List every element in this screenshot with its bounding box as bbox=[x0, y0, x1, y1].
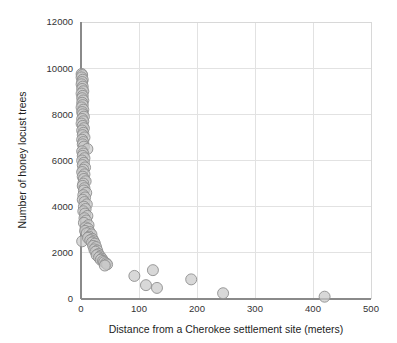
y-tick-labels-group: 020004000600080001000012000 bbox=[47, 16, 73, 304]
y-tick-label: 2000 bbox=[52, 247, 73, 258]
scatter-chart-figure: 020004000600080001000012000 010020030040… bbox=[0, 0, 397, 343]
data-point bbox=[129, 270, 140, 281]
data-point bbox=[140, 280, 151, 291]
y-tick-label: 8000 bbox=[52, 109, 73, 120]
gridlines-group bbox=[81, 22, 371, 299]
y-tick-label: 4000 bbox=[52, 201, 73, 212]
y-tick-label: 12000 bbox=[47, 16, 73, 27]
x-axis-title: Distance from a Cherokee settlement site… bbox=[109, 323, 344, 335]
data-point bbox=[99, 260, 110, 271]
data-point bbox=[218, 288, 229, 299]
x-tick-labels-group: 0100200300400500 bbox=[78, 303, 379, 314]
x-tick-label: 100 bbox=[131, 303, 147, 314]
x-tick-label: 400 bbox=[305, 303, 321, 314]
x-tick-label: 500 bbox=[363, 303, 379, 314]
y-tick-label: 0 bbox=[68, 293, 73, 304]
data-point bbox=[147, 265, 158, 276]
y-axis-title: Number of honey locust trees bbox=[16, 91, 28, 228]
data-point bbox=[186, 274, 197, 285]
x-tick-label: 300 bbox=[247, 303, 263, 314]
x-tick-label: 0 bbox=[78, 303, 83, 314]
y-tick-label: 10000 bbox=[47, 63, 73, 74]
y-tick-label: 6000 bbox=[52, 155, 73, 166]
data-point bbox=[319, 291, 330, 302]
x-tick-label: 200 bbox=[189, 303, 205, 314]
data-markers-group bbox=[76, 68, 330, 302]
chart-canvas: 020004000600080001000012000 010020030040… bbox=[0, 0, 397, 343]
data-point bbox=[151, 282, 162, 293]
